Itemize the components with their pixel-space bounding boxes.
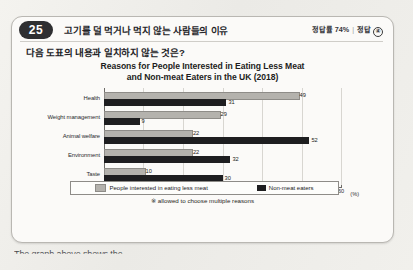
bar-group: Environment2232 bbox=[22, 148, 365, 165]
body-paragraph-clipped: The graph above shows the bbox=[14, 249, 123, 263]
question-number-badge: 25 bbox=[19, 21, 53, 39]
category-label: Health bbox=[22, 95, 100, 101]
chart-plot-area: Health4931Weight management299Animal wel… bbox=[22, 88, 365, 188]
bar-value-label: 10 bbox=[146, 168, 152, 174]
question-prompt: 다음 도표의 내용과 일치하지 않는 것은? bbox=[26, 45, 185, 59]
chart-legend: People interested in eating less meat No… bbox=[70, 181, 339, 195]
header-divider bbox=[20, 41, 383, 42]
chart-title: Reasons for People Interested in Eating … bbox=[22, 61, 383, 83]
accuracy-rate: 정답률 74% bbox=[312, 25, 349, 34]
bar-group: Health4931 bbox=[22, 91, 365, 108]
legend-item-dark: Non-meat eaters bbox=[257, 185, 314, 191]
bar-dark bbox=[104, 99, 226, 105]
bar-value-label: 32 bbox=[232, 156, 238, 162]
question-card: 25 고기를 덜 먹거나 먹지 않는 사람들의 이유 정답률 74% | 정답 … bbox=[11, 16, 394, 243]
bar-group: Animal welfare2252 bbox=[22, 129, 365, 146]
chart-title-line2: and Non-meat Eaters in the UK (2018) bbox=[22, 72, 383, 83]
chart-title-line1: Reasons for People Interested in Eating … bbox=[22, 61, 383, 72]
legend-item-light: People interested in eating less meat bbox=[95, 184, 207, 192]
bar-value-label: 52 bbox=[311, 137, 317, 143]
question-header: 25 고기를 덜 먹거나 먹지 않는 사람들의 이유 정답률 74% | 정답 … bbox=[16, 20, 387, 42]
body-paragraph-text: The graph above shows the bbox=[14, 249, 123, 259]
bar-value-label: 49 bbox=[300, 92, 306, 98]
legend-label-light: People interested in eating less meat bbox=[109, 185, 207, 191]
answer-label: 정답 bbox=[357, 25, 371, 34]
category-label: Environment bbox=[22, 152, 100, 158]
bar-value-label: 22 bbox=[193, 130, 199, 136]
bar-value-label: 22 bbox=[193, 149, 199, 155]
question-topic-title: 고기를 덜 먹거나 먹지 않는 사람들의 이유 bbox=[64, 23, 228, 37]
legend-swatch-light-icon bbox=[95, 184, 106, 192]
stats-separator: | bbox=[351, 25, 355, 34]
bar-dark bbox=[104, 137, 309, 143]
category-label: Weight management bbox=[22, 114, 100, 120]
category-label: Animal welfare bbox=[22, 133, 100, 139]
chart-footnote: ※ allowed to choose multiple reasons bbox=[22, 197, 383, 204]
bar-dark bbox=[104, 118, 140, 124]
bar-group: Weight management299 bbox=[22, 110, 365, 127]
bar-value-label: 31 bbox=[228, 99, 234, 105]
legend-label-dark: Non-meat eaters bbox=[269, 185, 314, 191]
bar-dark bbox=[104, 156, 230, 162]
answer-stats: 정답률 74% | 정답 ④ bbox=[312, 24, 383, 37]
bar-value-label: 29 bbox=[221, 111, 227, 117]
legend-swatch-dark-icon bbox=[257, 185, 266, 191]
bar-value-label: 9 bbox=[142, 118, 145, 124]
category-label: Taste bbox=[22, 171, 100, 177]
answer-choice: ④ bbox=[373, 27, 383, 37]
chart-figure: Reasons for People Interested in Eating … bbox=[22, 61, 383, 236]
